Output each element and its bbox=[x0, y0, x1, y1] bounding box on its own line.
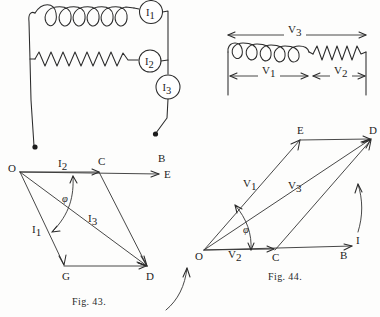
figure-illustration-layer: I1 I2 I3 bbox=[0, 0, 380, 317]
phasor-i3-line bbox=[20, 172, 147, 266]
fig44-label-v3: V3 bbox=[288, 179, 302, 194]
coil-inductor bbox=[35, 5, 134, 26]
fig43-side-cd bbox=[99, 172, 147, 266]
phasor-v1-line bbox=[204, 140, 300, 250]
fig43-label-G: G bbox=[62, 270, 70, 282]
right-conductor-upper bbox=[163, 11, 169, 74]
circuit-series: V3 V1 V2 bbox=[228, 23, 366, 95]
series-resistor-teeth bbox=[313, 46, 366, 60]
scanned-page: I1 I2 I3 bbox=[0, 0, 380, 317]
circuit-parallel: I1 I2 I3 bbox=[29, 1, 180, 150]
fig43-label-O: O bbox=[8, 162, 16, 174]
coil-to-meter-lead bbox=[134, 8, 139, 9]
fig44-side-ed bbox=[300, 139, 370, 140]
fig43-label-i1: I1 bbox=[32, 223, 41, 238]
fig44-rotation-arrowhead bbox=[355, 184, 362, 193]
series-coil-turns bbox=[228, 43, 309, 62]
v2-span: V2 bbox=[313, 64, 365, 82]
fig44-phi-label: φ bbox=[243, 224, 249, 235]
fig44-label-C: C bbox=[272, 251, 279, 263]
fig44-label-D: D bbox=[369, 124, 377, 136]
right-conductor-lower bbox=[156, 99, 168, 133]
fig-43: φ O C B E G D I2 I1 I3 Fig. 43. bbox=[8, 152, 190, 310]
terminal-dot-right bbox=[153, 131, 158, 136]
fig-44: φ O C E D I B V1 V2 V3 Fig. 44. bbox=[195, 124, 377, 282]
fig43-label-D: D bbox=[146, 270, 154, 282]
fig44-label-v2: V2 bbox=[228, 248, 241, 263]
fig43-label-i3: I3 bbox=[88, 212, 98, 227]
v1-span: V1 bbox=[230, 64, 308, 82]
fig44-label-I: I bbox=[356, 234, 360, 246]
fig44-label-v1: V1 bbox=[243, 177, 256, 192]
coil-turns bbox=[35, 5, 134, 26]
terminal-dot-left bbox=[32, 144, 37, 149]
resistor-zigzag bbox=[35, 52, 138, 66]
fig44-label-E: E bbox=[297, 124, 304, 136]
fig43-label-i2: I2 bbox=[58, 157, 67, 172]
fig43-phi-label: φ bbox=[62, 193, 68, 204]
v3-span: V3 bbox=[228, 23, 366, 41]
fig44-label-O: O bbox=[195, 250, 203, 262]
meter-i2-to-bus bbox=[161, 60, 168, 61]
phasor-i1-line bbox=[20, 172, 64, 265]
left-conductor bbox=[29, 12, 35, 146]
resistor-teeth bbox=[35, 52, 138, 66]
phasor-v3-line bbox=[204, 139, 371, 250]
fig44-caption: Fig. 44. bbox=[268, 271, 302, 282]
fig43-label-C: C bbox=[98, 155, 105, 167]
fig43-phi-arrowhead-bottom bbox=[52, 226, 60, 232]
fig43-label-E: E bbox=[164, 168, 171, 180]
fig43-caption: Fig. 43. bbox=[72, 296, 106, 307]
fig44-label-B: B bbox=[340, 249, 347, 261]
coil-to-resistor-lead bbox=[309, 52, 313, 54]
fig43-label-B: B bbox=[158, 152, 165, 164]
